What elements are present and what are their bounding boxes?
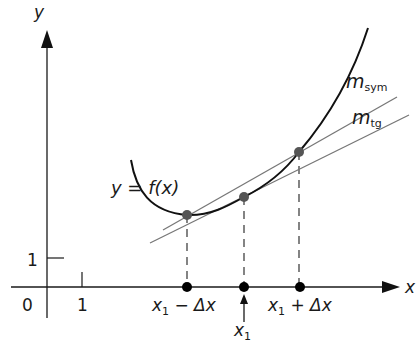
x-axis-label: x (404, 277, 416, 297)
x-tick-label: 1 (77, 295, 88, 315)
left-point-label: x1 − Δx (151, 295, 217, 318)
x1-pointer-arrow-icon (240, 294, 248, 304)
x-axis-arrow-icon (382, 281, 400, 293)
origin-label: 0 (22, 295, 33, 315)
curve-point-center (239, 192, 249, 202)
axis-point-left (182, 282, 192, 292)
derivative-diagram: y x 0 1 1 y = f(x) msym mtg x1 − Δx x1 +… (0, 0, 419, 356)
axis-point-right (295, 282, 305, 292)
y-axis-arrow-icon (41, 30, 53, 48)
curve-point-left (182, 210, 192, 220)
right-point-label: x1 + Δx (267, 295, 333, 318)
y-axis-label: y (33, 2, 45, 22)
y-tick-label: 1 (27, 250, 38, 270)
tangent-line (150, 115, 409, 243)
secant-label: msym (346, 70, 387, 94)
curve-point-right (294, 147, 304, 157)
axis-point-center (239, 282, 249, 292)
curve-label: y = f(x) (110, 177, 179, 198)
tangent-label: mtg (352, 106, 382, 130)
center-point-label: x1 (233, 320, 251, 343)
